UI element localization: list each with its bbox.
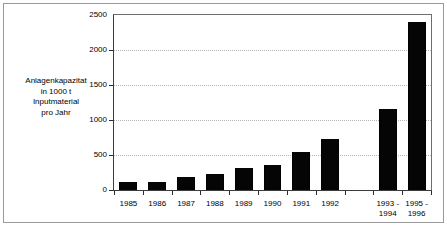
bar-1985 xyxy=(119,182,137,190)
y-axis-title-line-4: pro Jahr xyxy=(6,108,106,119)
y-axis-title: Anlagenkapazitat in 1000 t Inputmaterial… xyxy=(6,76,106,118)
bar-1990 xyxy=(264,165,282,190)
bar-1989 xyxy=(235,168,253,190)
bar-1995 xyxy=(408,22,426,190)
figure: Anlagenkapazitat in 1000 t Inputmaterial… xyxy=(0,0,447,226)
y-axis-title-line-1: Anlagenkapazitat xyxy=(6,76,106,87)
y-axis-title-line-3: Inputmaterial xyxy=(6,97,106,108)
bar-series xyxy=(114,15,431,190)
bar-1992 xyxy=(321,139,339,190)
bar-1988 xyxy=(206,174,224,190)
bar-1987 xyxy=(177,177,195,190)
plot-area xyxy=(113,14,432,191)
y-axis-title-line-2: in 1000 t xyxy=(6,87,106,98)
bar-1986 xyxy=(148,182,166,190)
bar-1993 xyxy=(379,109,397,190)
bar-1991 xyxy=(292,152,310,190)
